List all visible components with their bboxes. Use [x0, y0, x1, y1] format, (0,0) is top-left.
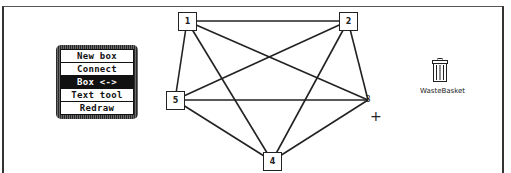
edge-2-5[interactable] — [175, 21, 348, 100]
tool-palette: New box Connect Box <-> Label Text tool … — [56, 45, 138, 119]
graph-node-5[interactable]: 5 — [166, 91, 185, 110]
box-label-toggle-button[interactable]: Box <-> Label — [61, 76, 133, 89]
connect-button[interactable]: Connect — [61, 63, 133, 76]
wastebasket-label: WasteBasket — [420, 87, 460, 95]
graph-node-2[interactable]: 2 — [339, 12, 358, 31]
edge-4-5[interactable] — [175, 100, 272, 161]
edge-1-5[interactable] — [175, 21, 187, 100]
edge-3-4[interactable] — [272, 100, 368, 161]
trash-can-icon — [432, 58, 448, 82]
graph-node-4[interactable]: 4 — [263, 152, 282, 171]
redraw-button[interactable]: Redraw — [61, 102, 133, 114]
graph-node-3[interactable]: 3 — [365, 94, 371, 104]
text-tool-button[interactable]: Text tool — [61, 89, 133, 102]
crosshair-cursor-icon: + — [370, 109, 382, 123]
edge-2-3[interactable] — [348, 21, 368, 100]
graph-node-1[interactable]: 1 — [178, 12, 197, 31]
edge-2-4[interactable] — [272, 21, 348, 161]
new-box-button[interactable]: New box — [61, 50, 133, 63]
edge-1-4[interactable] — [187, 21, 272, 161]
wastebasket[interactable]: WasteBasket — [420, 58, 460, 95]
